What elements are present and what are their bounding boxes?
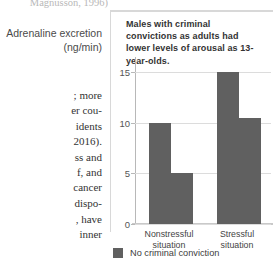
bar <box>217 72 239 224</box>
bar <box>149 123 171 224</box>
bar <box>239 118 261 224</box>
legend-swatch-icon <box>113 248 123 258</box>
page-body-column: Magnusson, 1996) Adrenaline excretion (n… <box>0 0 108 269</box>
figure-container: Males with criminal convictions as adult… <box>108 8 273 269</box>
y-tick-mark <box>131 72 135 73</box>
x-label-line: Nonstressful <box>145 229 194 239</box>
y-tick-label: 0 <box>125 219 130 230</box>
y-tick-label: 5 <box>125 168 130 179</box>
bar <box>171 173 193 224</box>
plot-area: 051015 NonstressfulsituationStressfulsit… <box>135 57 271 224</box>
body-text-fragment-2: , have inner <box>0 212 102 243</box>
x-label-line: Stressful <box>220 229 254 239</box>
gridline <box>135 224 271 225</box>
y-tick-label: 15 <box>119 67 130 78</box>
y-tick-label: 10 <box>119 117 130 128</box>
citation-fragment: Magnusson, 1996) <box>0 0 108 8</box>
y-tick-mark <box>131 173 135 174</box>
body-text-fragment-1: ; more er cou- idents 2016). ss and f, a… <box>0 88 102 211</box>
y-axis-title: Adrenaline excretion (ng/min) <box>0 26 102 54</box>
legend-label: No criminal conviction <box>130 248 219 258</box>
x-label-line: situation <box>221 240 254 250</box>
chart-legend: No criminal conviction <box>113 248 219 258</box>
y-tick-mark <box>131 123 135 124</box>
y-axis-line <box>135 57 136 224</box>
y-tick-mark <box>131 224 135 225</box>
gridline <box>135 72 271 73</box>
